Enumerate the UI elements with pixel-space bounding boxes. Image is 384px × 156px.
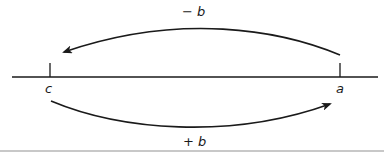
point-label-a: a [336,82,344,95]
arrow-label-plus-b: + b [183,135,206,148]
diagram-svg [0,0,384,156]
number-line-diagram: c a − b + b [0,0,384,156]
arrow-label-minus-b: − b [182,5,205,18]
bottom-divider [0,150,384,152]
arrow-minus-b [64,29,340,55]
arrow-plus-b [51,101,330,127]
point-label-c: c [45,82,52,95]
